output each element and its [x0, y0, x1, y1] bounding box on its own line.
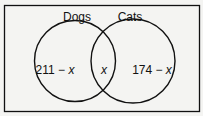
venn-diagram: Dogs Cats 211 − x x 174 − x [0, 0, 203, 116]
intersection-label: x [100, 63, 108, 77]
cats-only-region-label: 174 − x [132, 63, 173, 77]
dogs-only-region-label: 211 − x [36, 63, 76, 77]
dogs-circle [35, 21, 116, 102]
universe-rectangle [5, 6, 200, 112]
dogs-label: Dogs [63, 10, 91, 24]
cats-circle [91, 19, 175, 103]
cats-label: Cats [118, 10, 143, 24]
